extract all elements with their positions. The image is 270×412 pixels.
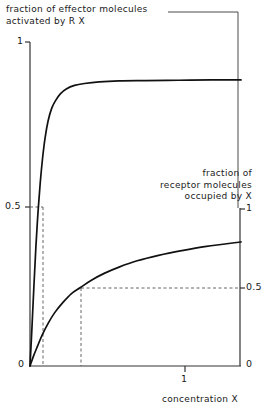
left-axis-tick-label-1: 1 (17, 36, 23, 46)
left-axis-label: fraction of effector moleculesactivated … (6, 4, 148, 27)
right-axis-tick-label-0: 0 (246, 359, 252, 369)
left-axis-label-line1: fraction of effector molecules (6, 4, 148, 14)
left-axis-tick-label-05: 0.5 (5, 201, 21, 211)
right-axis-label: fraction ofreceptor moleculesoccupied by… (148, 168, 252, 203)
x-axis-label: concentration X (148, 394, 252, 406)
right-axis-label-line2: receptor molecules (160, 180, 252, 190)
left-axis-label-line2: activated by R X (6, 16, 85, 26)
right-axis-label-line1: fraction of (203, 168, 252, 178)
right-axis-tick-label-1: 1 (246, 203, 252, 213)
chart-canvas (0, 0, 270, 412)
x-axis-tick-label-1: 1 (181, 374, 187, 384)
effector-activation-curve (30, 80, 241, 366)
right-axis-tick-label-05: 0.5 (246, 282, 262, 292)
receptor-occupancy-curve (30, 242, 241, 366)
left-axis-tick-label-0: 0 (18, 359, 24, 369)
receptor-effector-chart: fraction of effector moleculesactivated … (0, 0, 270, 412)
right-axis-label-line3: occupied by X (185, 191, 252, 201)
